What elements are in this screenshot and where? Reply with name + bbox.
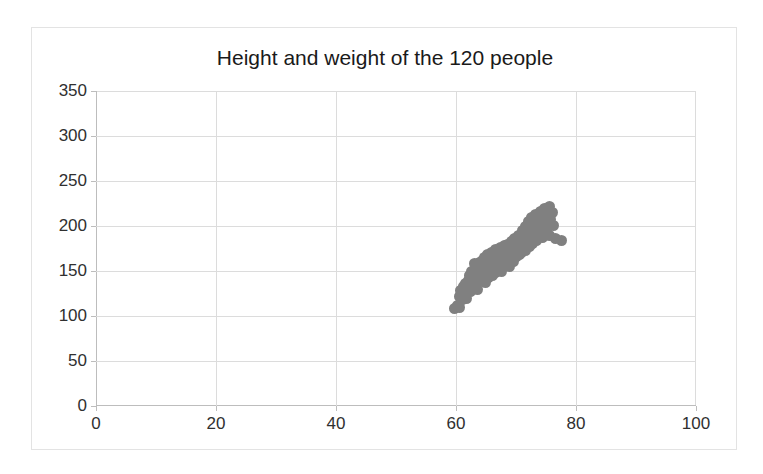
scatter-point bbox=[519, 239, 530, 250]
scatter-point bbox=[505, 252, 516, 263]
scatter-point bbox=[514, 249, 525, 260]
scatter-point bbox=[463, 275, 474, 286]
y-tick-label: 250 bbox=[59, 171, 87, 191]
y-tick-mark bbox=[91, 226, 96, 227]
x-tick-label: 40 bbox=[327, 414, 346, 434]
scatter-point bbox=[511, 238, 522, 249]
scatter-point bbox=[513, 230, 524, 241]
scatter-point bbox=[458, 281, 469, 292]
scatter-point bbox=[518, 231, 529, 242]
scatter-point bbox=[543, 210, 554, 221]
scatter-point bbox=[544, 201, 555, 212]
gridline-horizontal bbox=[96, 316, 696, 317]
plot-area: 050100150200250300350 020406080100 bbox=[96, 91, 696, 406]
y-tick-mark bbox=[91, 181, 96, 182]
gridline-vertical bbox=[216, 91, 217, 406]
scatter-point bbox=[509, 233, 520, 244]
scatter-point bbox=[476, 268, 487, 279]
scatter-point bbox=[465, 286, 476, 297]
scatter-point bbox=[488, 254, 499, 265]
x-tick-mark bbox=[216, 406, 217, 411]
scatter-point bbox=[463, 283, 474, 294]
y-tick-label: 150 bbox=[59, 261, 87, 281]
scatter-point bbox=[491, 251, 502, 262]
scatter-point bbox=[458, 287, 469, 298]
scatter-point bbox=[523, 236, 534, 247]
scatter-point bbox=[521, 228, 532, 239]
scatter-points-layer bbox=[96, 91, 696, 406]
scatter-point bbox=[472, 284, 483, 295]
scatter-point bbox=[515, 234, 526, 245]
scatter-point bbox=[449, 303, 460, 314]
scatter-point bbox=[479, 252, 490, 263]
scatter-point bbox=[527, 238, 538, 249]
scatter-point bbox=[466, 276, 477, 287]
scatter-chart-screenshot: Height and weight of the 120 people 0501… bbox=[0, 0, 763, 474]
scatter-point bbox=[457, 294, 468, 305]
scatter-point bbox=[492, 258, 503, 269]
scatter-point bbox=[517, 242, 528, 253]
scatter-point bbox=[475, 275, 486, 286]
scatter-point bbox=[502, 255, 513, 266]
x-tick-label: 60 bbox=[447, 414, 466, 434]
scatter-point bbox=[480, 277, 491, 288]
scatter-point bbox=[525, 223, 536, 234]
scatter-point bbox=[452, 300, 463, 311]
scatter-point bbox=[470, 267, 481, 278]
scatter-point bbox=[493, 248, 504, 259]
x-tick-mark bbox=[96, 406, 97, 411]
scatter-point bbox=[537, 232, 548, 243]
scatter-point bbox=[544, 230, 555, 241]
x-tick-mark bbox=[696, 406, 697, 411]
y-tick-mark bbox=[91, 316, 96, 317]
scatter-point bbox=[495, 242, 506, 253]
scatter-point bbox=[499, 250, 510, 261]
scatter-point bbox=[505, 243, 516, 254]
scatter-point bbox=[503, 249, 514, 260]
scatter-point bbox=[529, 230, 540, 241]
scatter-point bbox=[510, 246, 521, 257]
scatter-point bbox=[460, 289, 471, 300]
scatter-point bbox=[539, 203, 550, 214]
scatter-point bbox=[535, 206, 546, 217]
x-tick-mark bbox=[456, 406, 457, 411]
scatter-point bbox=[497, 246, 508, 257]
y-tick-mark bbox=[91, 361, 96, 362]
scatter-point bbox=[478, 274, 489, 285]
scatter-point bbox=[489, 264, 500, 275]
scatter-point bbox=[490, 244, 501, 255]
scatter-point bbox=[545, 214, 556, 225]
scatter-point bbox=[533, 229, 544, 240]
scatter-point bbox=[457, 284, 468, 295]
scatter-point bbox=[482, 249, 493, 260]
x-tick-label: 0 bbox=[91, 414, 100, 434]
scatter-point bbox=[481, 260, 492, 271]
scatter-point bbox=[516, 247, 527, 258]
gridline-horizontal bbox=[96, 136, 696, 137]
scatter-point bbox=[473, 271, 484, 282]
scatter-point bbox=[530, 209, 541, 220]
x-tick-label: 80 bbox=[567, 414, 586, 434]
scatter-point bbox=[501, 245, 512, 256]
scatter-point bbox=[461, 293, 472, 304]
scatter-point bbox=[498, 260, 509, 271]
scatter-point bbox=[506, 236, 517, 247]
gridline-vertical bbox=[456, 91, 457, 406]
y-tick-label: 300 bbox=[59, 126, 87, 146]
scatter-point bbox=[547, 207, 558, 218]
y-tick-label: 50 bbox=[68, 351, 87, 371]
scatter-point bbox=[486, 247, 497, 258]
scatter-point bbox=[524, 241, 535, 252]
gridline-horizontal bbox=[96, 181, 696, 182]
x-tick-label: 20 bbox=[207, 414, 226, 434]
gridline-vertical bbox=[336, 91, 337, 406]
scatter-point bbox=[526, 212, 537, 223]
y-tick-label: 350 bbox=[59, 81, 87, 101]
scatter-point bbox=[538, 212, 549, 223]
scatter-point bbox=[508, 256, 519, 267]
scatter-point bbox=[485, 263, 496, 274]
y-tick-mark bbox=[91, 136, 96, 137]
scatter-point bbox=[494, 256, 505, 267]
scatter-point bbox=[507, 248, 518, 259]
scatter-point bbox=[484, 257, 495, 268]
